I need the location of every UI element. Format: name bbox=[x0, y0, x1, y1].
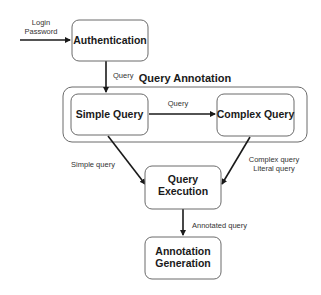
edge-label-annotated-query: Annotated query bbox=[192, 221, 247, 230]
edge-label-complex-query: Complex query bbox=[249, 155, 300, 164]
edge-label-auth-query: Query bbox=[113, 71, 134, 80]
edge-label-simple-to-complex: Query bbox=[168, 99, 189, 108]
simple-query-label: Simple Query bbox=[76, 108, 144, 120]
query-annotation-title: Query Annotation bbox=[139, 72, 232, 84]
query-execution-label-line1: Query bbox=[168, 173, 199, 185]
node-authentication: Authentication bbox=[72, 20, 148, 61]
flow-diagram: Query Annotation Login Password Query Qu… bbox=[0, 0, 321, 295]
annotation-generation-label-line2: Generation bbox=[155, 257, 210, 269]
complex-query-label: Complex Query bbox=[217, 108, 295, 120]
node-simple-query: Simple Query bbox=[71, 94, 148, 135]
annotation-generation-label-line1: Annotation bbox=[155, 245, 210, 257]
edge-complex-query-to-execution bbox=[222, 137, 250, 184]
edge-label-literal-query: Literal query bbox=[253, 164, 295, 173]
authentication-label: Authentication bbox=[73, 34, 147, 46]
edge-label-password: Password bbox=[25, 27, 58, 36]
edge-label-login: Login bbox=[32, 18, 50, 27]
query-execution-label-line2: Execution bbox=[158, 185, 208, 197]
edge-label-simple-query: Simple query bbox=[71, 160, 115, 169]
node-complex-query: Complex Query bbox=[217, 94, 295, 136]
node-annotation-generation: Annotation Generation bbox=[145, 237, 221, 279]
node-query-execution: Query Execution bbox=[145, 166, 221, 209]
